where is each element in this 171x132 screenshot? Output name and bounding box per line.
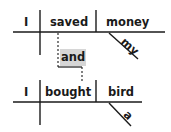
clause2-verb: bought [45,87,91,99]
sentence-diagram: I saved money my and I bought bird a [0,0,171,132]
clause2-object: bird [108,87,134,99]
clause1-object: money [106,17,149,29]
clause1-subject: I [24,17,28,29]
clause1-verb: saved [50,17,88,29]
conjunction-word: and [61,52,85,64]
clause2-subject: I [24,87,28,99]
